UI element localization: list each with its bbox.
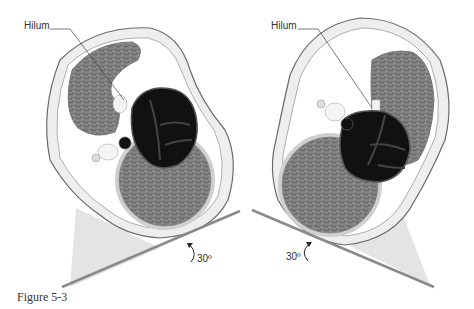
figure-illustration [0, 0, 474, 309]
right-panel [252, 18, 449, 287]
right-angle-label: 30º [286, 251, 301, 262]
left-panel [47, 28, 240, 287]
left-angle-arrow-icon [190, 245, 194, 262]
right-angle-arrow-icon [304, 244, 309, 261]
figure-caption: Figure 5-3 [17, 290, 67, 305]
left-angle-label: 30º [197, 253, 212, 264]
left-dark-structure [131, 88, 197, 168]
right-hilum-label: Hilum [271, 20, 297, 31]
left-hilum-label: Hilum [24, 20, 50, 31]
